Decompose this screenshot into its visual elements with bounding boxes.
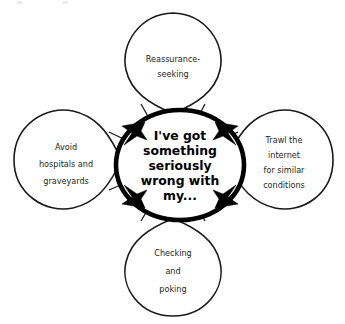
petal-label-left-line-1: hospitals and: [39, 159, 93, 169]
cycle-diagram: Reassurance- seeking Trawl the internet …: [0, 0, 345, 324]
petal-label-right-line-2: for similar: [264, 165, 306, 175]
core-label-line-0: I've got: [154, 128, 207, 143]
petal-label-bottom-line-1: and: [165, 266, 180, 276]
petal-label-top-line-0: Reassurance-: [146, 54, 201, 64]
petal-label-bottom-line-2: poking: [159, 284, 186, 294]
core-label-line-3: wrong with: [141, 173, 220, 188]
petal-label-right-line-0: Trawl the: [265, 135, 303, 145]
petal-label-right-line-3: conditions: [263, 180, 305, 190]
petal-label-bottom-line-0: Checking: [154, 248, 191, 258]
petal-label-top-line-1: seeking: [157, 69, 188, 79]
core-label-line-1: something: [143, 143, 217, 158]
cycle-svg: Reassurance- seeking Trawl the internet …: [0, 0, 345, 324]
core-label-line-2: seriously: [148, 158, 211, 173]
petal-label-left-line-0: Avoid: [55, 142, 77, 152]
petal-label-left-line-2: graveyards: [43, 176, 88, 186]
petal-label-right-line-1: internet: [268, 150, 300, 160]
core-label-line-4: my...: [163, 188, 197, 203]
